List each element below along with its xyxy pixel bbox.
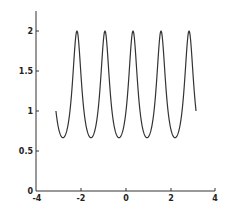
x-tick-label: 2 [168,194,174,203]
x-tick-label: 4 [212,194,218,203]
x-tick-label: -2 [77,194,86,203]
y-tick-label: 2 [27,27,33,36]
data-line [56,31,196,138]
y-tick-label: 1.5 [19,67,34,76]
y-tick-label: 1 [27,107,33,116]
x-tick-label: -4 [33,194,42,203]
y-tick-labels: 0 0.5 1 1.5 2 [19,27,34,196]
line-chart: 0 0.5 1 1.5 2 -4 -2 0 2 4 [0,0,232,211]
x-tick-label: 0 [123,194,129,203]
x-tick-labels: -4 -2 0 2 4 [33,194,219,203]
y-tick-label: 0.5 [19,147,34,156]
